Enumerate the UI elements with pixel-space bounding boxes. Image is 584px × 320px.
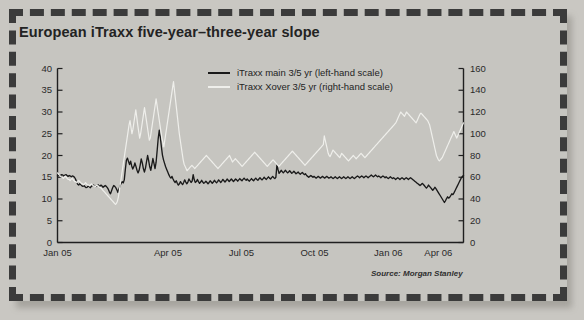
legend-item[interactable]: iTraxx main 3/5 yr (left-hand scale)	[208, 66, 393, 79]
chart-plot-svg	[0, 0, 584, 320]
x-axis-tick-label: Jul 05	[211, 248, 271, 258]
x-axis-tick-label: Apr 05	[138, 248, 198, 258]
x-axis-tick-label: Oct 05	[284, 248, 344, 258]
legend-item[interactable]: iTraxx Xover 3/5 yr (right-hand scale)	[208, 80, 393, 93]
right-axis-tick-label: 0	[470, 238, 504, 248]
series-line-0	[58, 130, 464, 202]
right-axis-tick-label: 140	[470, 85, 504, 95]
x-axis-tick-label: Jan 05	[28, 248, 88, 258]
legend-swatch-line-icon	[208, 86, 230, 88]
right-axis-tick-label: 100	[470, 129, 504, 139]
chart-legend: iTraxx main 3/5 yr (left-hand scale)iTra…	[208, 66, 393, 94]
chart-canvas	[0, 0, 584, 320]
right-axis-tick-label: 60	[470, 172, 504, 182]
right-axis-tick-label: 160	[470, 64, 504, 74]
left-axis-tick-label: 40	[20, 64, 52, 74]
source-note: Source: Morgan Stanley	[371, 269, 463, 278]
right-axis-tick-label: 80	[470, 151, 504, 161]
x-axis-tick-label: Apr 06	[408, 248, 468, 258]
left-axis-tick-label: 25	[20, 129, 52, 139]
series-line-1	[58, 82, 464, 205]
right-axis-tick-label: 120	[470, 107, 504, 117]
right-axis-tick-label: 40	[470, 194, 504, 204]
left-axis-tick-label: 30	[20, 107, 52, 117]
legend-swatch-line-icon	[208, 72, 230, 74]
figure-root: European iTraxx five-year–three-year slo…	[0, 0, 584, 320]
left-axis-tick-label: 15	[20, 172, 52, 182]
right-axis-tick-label: 20	[470, 216, 504, 226]
left-axis-tick-label: 20	[20, 151, 52, 161]
legend-label: iTraxx Xover 3/5 yr (right-hand scale)	[237, 81, 393, 92]
left-axis-tick-label: 10	[20, 194, 52, 204]
left-axis-tick-label: 5	[20, 216, 52, 226]
left-axis-tick-label: 35	[20, 85, 52, 95]
left-axis-tick-label: 0	[20, 238, 52, 248]
legend-label: iTraxx main 3/5 yr (left-hand scale)	[237, 67, 383, 78]
